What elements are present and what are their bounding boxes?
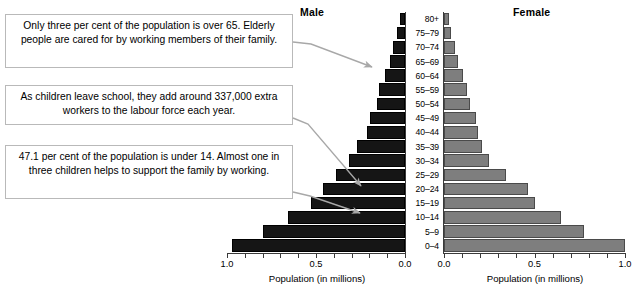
axis-tick	[535, 254, 536, 258]
female-bar	[444, 69, 463, 82]
male-bar	[263, 225, 405, 238]
axis-tick	[444, 254, 445, 258]
female-bar-row	[444, 182, 625, 196]
male-bars	[227, 12, 405, 253]
male-bar-row	[227, 69, 405, 83]
age-group-label: 25–29	[404, 168, 444, 182]
axis-tick	[369, 254, 370, 258]
female-bar-row	[444, 12, 625, 26]
male-bar-row	[227, 26, 405, 40]
male-bar	[379, 83, 405, 96]
axis-tick	[245, 254, 246, 258]
male-bar	[288, 211, 405, 224]
male-bar	[357, 140, 405, 153]
male-bar-row	[227, 239, 405, 253]
female-bar-row	[444, 239, 625, 253]
axis-tick	[607, 254, 608, 258]
female-bar	[444, 13, 449, 26]
age-group-label: 75–79	[404, 26, 444, 40]
female-bar	[444, 211, 561, 224]
axis-tick	[405, 254, 406, 258]
male-bar-row	[227, 196, 405, 210]
female-bar	[444, 55, 458, 68]
female-bar	[444, 41, 455, 54]
age-group-label: 20–24	[404, 182, 444, 196]
male-bar	[336, 169, 405, 182]
axis-tick	[316, 254, 317, 258]
female-bar-row	[444, 69, 625, 83]
male-bar-row	[227, 111, 405, 125]
axis-tick-label: 1.0	[207, 259, 247, 269]
axis-tick-label: 0.0	[424, 259, 464, 269]
female-bar	[444, 169, 506, 182]
male-bar-row	[227, 225, 405, 239]
axis-tick-label: 0.0	[385, 259, 425, 269]
female-bar	[444, 154, 489, 167]
female-bar-row	[444, 97, 625, 111]
female-bar-row	[444, 83, 625, 97]
age-group-label: 70–74	[404, 40, 444, 54]
age-group-label: 55–59	[404, 83, 444, 97]
female-bar-row	[444, 111, 625, 125]
male-bar-row	[227, 140, 405, 154]
axis-tick	[263, 254, 264, 258]
female-bar	[444, 98, 470, 111]
female-bar-row	[444, 196, 625, 210]
female-bar	[444, 112, 476, 125]
axis-tick	[352, 254, 353, 258]
axis-tick	[280, 254, 281, 258]
age-group-label: 45–49	[404, 111, 444, 125]
age-group-label: 80+	[404, 12, 444, 26]
age-group-label: 30–34	[404, 154, 444, 168]
female-bar-row	[444, 55, 625, 69]
axis-tick	[625, 254, 626, 258]
population-pyramid-figure: Only three per cent of the population is…	[0, 0, 642, 297]
male-bar	[311, 197, 405, 210]
male-bar	[370, 112, 405, 125]
age-group-label: 65–69	[404, 55, 444, 69]
male-bar	[367, 126, 405, 139]
female-axis-caption: Population (in millions)	[425, 273, 642, 284]
female-bar-row	[444, 154, 625, 168]
female-bar-row	[444, 140, 625, 154]
male-axis-caption: Population (in millions)	[207, 273, 427, 284]
male-bar-row	[227, 12, 405, 26]
female-bar	[444, 83, 467, 96]
axis-tick	[462, 254, 463, 258]
female-bar-row	[444, 125, 625, 139]
age-group-label: 10–14	[404, 210, 444, 224]
female-bar	[444, 225, 584, 238]
axis-tick	[498, 254, 499, 258]
male-bar-row	[227, 154, 405, 168]
age-group-label: 0–4	[404, 239, 444, 253]
axis-tick	[227, 254, 228, 258]
female-bar-row	[444, 40, 625, 54]
male-bar	[377, 98, 405, 111]
female-bar	[444, 183, 528, 196]
male-bar-row	[227, 168, 405, 182]
axis-tick	[480, 254, 481, 258]
male-bar-row	[227, 40, 405, 54]
male-bar-row	[227, 182, 405, 196]
axis-tick	[334, 254, 335, 258]
age-group-labels: 80+75–7970–7465–6960–6455–5950–5445–4940…	[404, 12, 444, 253]
female-bar-row	[444, 168, 625, 182]
axis-tick-label: 1.0	[605, 259, 642, 269]
axis-tick	[553, 254, 554, 258]
male-bar-row	[227, 210, 405, 224]
age-group-label: 5–9	[404, 225, 444, 239]
axis-tick	[571, 254, 572, 258]
male-bar-row	[227, 83, 405, 97]
female-bar-row	[444, 26, 625, 40]
female-bar	[444, 126, 478, 139]
male-bar-row	[227, 125, 405, 139]
axis-tick	[387, 254, 388, 258]
female-bar	[444, 140, 482, 153]
age-group-label: 35–39	[404, 140, 444, 154]
axis-tick	[589, 254, 590, 258]
female-bars	[444, 12, 625, 253]
male-bar-row	[227, 55, 405, 69]
axis-tick	[298, 254, 299, 258]
male-bar	[232, 239, 405, 252]
female-bar	[444, 197, 535, 210]
